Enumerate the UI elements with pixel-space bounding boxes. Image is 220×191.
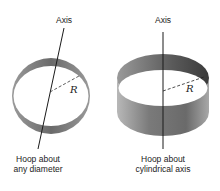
axis-label-left: Axis (52, 16, 76, 26)
caption-right: Hoop about cylindrical axis (128, 155, 198, 174)
hoop-cylindrical-figure (117, 32, 209, 149)
radius-label-right: R (186, 83, 194, 94)
radius-label-left: R (70, 84, 78, 95)
caption-left-line2: any diameter (8, 165, 68, 175)
caption-left: Hoop about any diameter (8, 155, 68, 174)
hoop-diameter-figure (12, 28, 90, 149)
hoop-opening (14, 66, 89, 126)
caption-right-line2: cylindrical axis (128, 165, 198, 175)
axis-label-right: Axis (151, 16, 175, 26)
